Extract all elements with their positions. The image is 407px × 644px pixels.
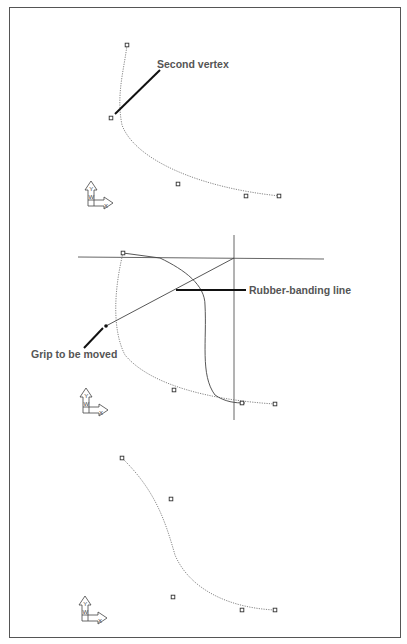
grip-icon [171, 595, 175, 599]
svg-text:W: W [89, 194, 95, 200]
grip-icon [244, 194, 248, 198]
grip-icon [172, 388, 176, 392]
grip-icon [125, 43, 129, 47]
svg-text:W: W [84, 401, 90, 407]
callout-second-vertex: Second vertex [157, 58, 229, 70]
grip-icon [109, 116, 113, 120]
spline-curve [122, 458, 275, 610]
grip-hot-icon [104, 324, 108, 328]
ucs-icon: Y W X [80, 388, 108, 416]
grip-icon [121, 251, 125, 255]
grip-icon [169, 497, 173, 501]
ucs-icon: Y W X [79, 596, 107, 624]
svg-text:X: X [104, 203, 108, 209]
grip-icon [240, 608, 244, 612]
callout-grip-to-be-moved: Grip to be moved [31, 348, 117, 360]
grip-icon [273, 402, 277, 406]
grip-icon [176, 182, 180, 186]
crosshair-horizontal [78, 257, 324, 259]
svg-text:Y: Y [83, 601, 87, 607]
svg-text:X: X [99, 410, 103, 416]
callout-leader [84, 328, 103, 348]
svg-text:Y: Y [89, 186, 93, 192]
grip-icon [120, 456, 124, 460]
panel-2: Y W X [78, 235, 324, 420]
spline-curve-original [116, 253, 275, 404]
ucs-icon: Y W X [85, 181, 113, 209]
callout-rubber-banding-line: Rubber-banding line [249, 284, 351, 296]
grip-icon [277, 194, 281, 198]
diagram-canvas: Y W X Y W X [0, 0, 407, 644]
svg-text:X: X [98, 618, 102, 624]
grip-icon [240, 401, 244, 405]
svg-text:Y: Y [84, 393, 88, 399]
rubber-banding-line [106, 258, 234, 326]
grip-icon [273, 608, 277, 612]
spline-curve-preview [123, 253, 245, 403]
panel-3: Y W X [79, 456, 277, 624]
svg-text:W: W [83, 609, 89, 615]
